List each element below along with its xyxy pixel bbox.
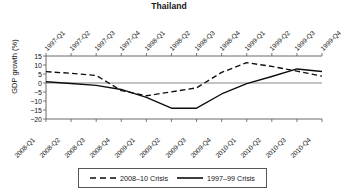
series-line-1 <box>46 63 322 96</box>
chart-legend: 2008–10 Crisis1997–99 Crisis <box>78 168 267 188</box>
solid-line-swatch-icon <box>177 175 203 181</box>
legend-entries: 2008–10 Crisis1997–99 Crisis <box>79 169 266 187</box>
legend-entry-label: 2008–10 Crisis <box>120 174 168 183</box>
series-line-2 <box>46 69 322 108</box>
legend-entry[interactable]: 2008–10 Crisis <box>90 174 168 183</box>
dashed-line-swatch-icon <box>90 175 116 181</box>
legend-entry[interactable]: 1997–99 Crisis <box>177 174 255 183</box>
legend-entry-label: 1997–99 Crisis <box>207 174 255 183</box>
